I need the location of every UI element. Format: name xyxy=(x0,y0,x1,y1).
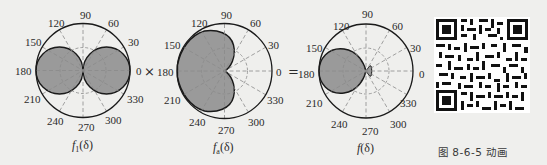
svg-text:330: 330 xyxy=(267,94,284,106)
svg-text:300: 300 xyxy=(390,118,407,130)
svg-text:330: 330 xyxy=(127,93,144,105)
svg-text:150: 150 xyxy=(25,36,42,48)
svg-text:120: 120 xyxy=(48,17,65,29)
label-fa: fa(δ) xyxy=(213,140,234,156)
svg-text:300: 300 xyxy=(248,116,265,128)
polar-plot-f1 xyxy=(36,24,130,118)
svg-text:180: 180 xyxy=(298,68,315,80)
svg-text:180: 180 xyxy=(157,66,174,78)
svg-text:270: 270 xyxy=(362,125,379,137)
svg-text:240: 240 xyxy=(331,118,348,130)
svg-text:150: 150 xyxy=(306,42,323,54)
svg-text:90: 90 xyxy=(362,8,374,20)
qr-code[interactable] xyxy=(434,17,530,113)
svg-text:300: 300 xyxy=(105,114,122,126)
svg-text:0: 0 xyxy=(419,68,425,80)
svg-text:30: 30 xyxy=(128,36,140,48)
svg-text:210: 210 xyxy=(164,94,181,106)
svg-text:240: 240 xyxy=(47,115,64,127)
svg-text:270: 270 xyxy=(78,121,95,133)
label-f: f(δ) xyxy=(357,141,374,155)
svg-text:0: 0 xyxy=(276,66,282,78)
svg-text:150: 150 xyxy=(164,39,181,51)
svg-text:0: 0 xyxy=(136,65,142,77)
svg-text:270: 270 xyxy=(218,124,235,136)
qr-finder-top-right xyxy=(507,19,528,40)
svg-text:330: 330 xyxy=(400,97,417,109)
qr-finder-top-left xyxy=(436,19,457,40)
figure-caption: 图 8-6-5 动画 xyxy=(438,144,507,159)
multiply-operator: × xyxy=(144,64,155,79)
pattern-multiplication-figure: 90 60 30 0 330 300 270 240 210 180 150 1… xyxy=(0,0,547,165)
svg-text:30: 30 xyxy=(410,42,422,54)
qr-finder-bottom-left xyxy=(436,90,457,111)
svg-text:60: 60 xyxy=(108,17,120,29)
polar-plot-fa xyxy=(177,24,272,119)
label-f1: f1(δ) xyxy=(72,138,93,154)
svg-text:60: 60 xyxy=(250,17,262,29)
svg-text:120: 120 xyxy=(191,17,208,29)
svg-text:180: 180 xyxy=(15,65,32,77)
svg-text:210: 210 xyxy=(306,97,323,109)
svg-text:240: 240 xyxy=(189,116,206,128)
svg-text:120: 120 xyxy=(333,20,350,32)
svg-text:90: 90 xyxy=(221,9,233,21)
polar-plot-f xyxy=(319,24,413,118)
svg-text:210: 210 xyxy=(24,93,41,105)
svg-text:30: 30 xyxy=(268,39,280,51)
svg-text:60: 60 xyxy=(392,20,404,32)
svg-text:90: 90 xyxy=(80,9,92,21)
